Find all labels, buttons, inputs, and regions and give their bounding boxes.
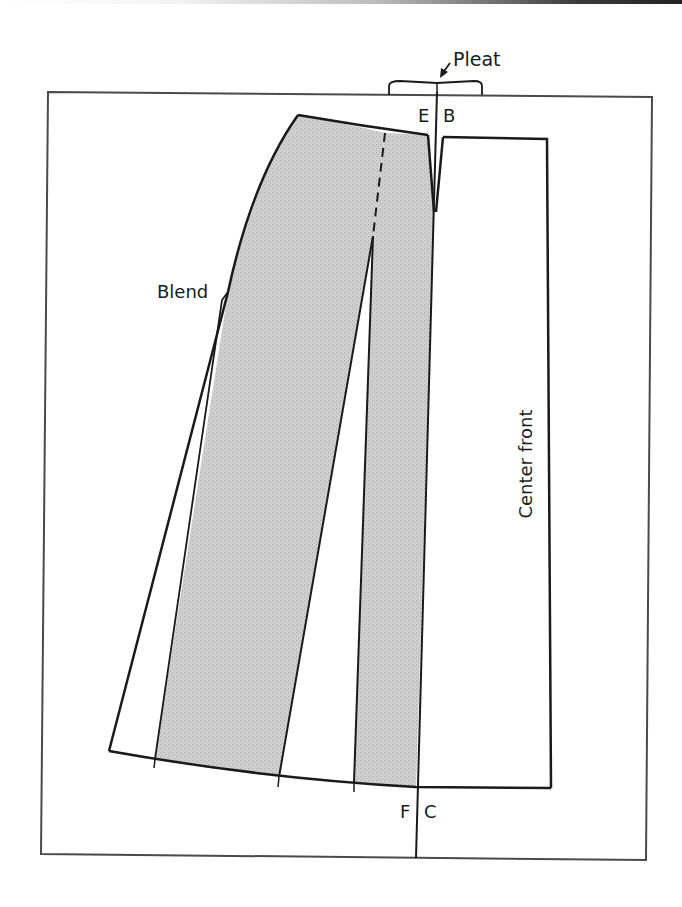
pleat-notch-right bbox=[436, 137, 443, 212]
pleat-fold-shape bbox=[389, 81, 482, 95]
skirt-pattern-diagram bbox=[0, 0, 682, 907]
hem-tick-1 bbox=[278, 777, 279, 787]
point-c-label: C bbox=[424, 803, 437, 821]
pleat-arrow-icon bbox=[440, 68, 448, 78]
blend-label: Blend bbox=[157, 283, 208, 301]
pleat-label: Pleat bbox=[453, 50, 501, 69]
point-b-label: B bbox=[443, 107, 455, 125]
center-front-label: Center front bbox=[517, 406, 535, 522]
point-f-label: F bbox=[400, 803, 410, 821]
point-e-label: E bbox=[418, 107, 429, 125]
hem-tick-3 bbox=[154, 759, 155, 768]
shaded-side-panel bbox=[155, 115, 385, 777]
